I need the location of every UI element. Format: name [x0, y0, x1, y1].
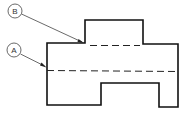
callout-a-label: A	[11, 46, 17, 55]
callout-b: B	[8, 4, 84, 43]
arrowhead-icon	[40, 63, 47, 68]
part-outline	[47, 20, 178, 107]
callout-b-leader	[22, 14, 83, 42]
technical-drawing: B A	[0, 0, 184, 113]
hidden-line-a	[47, 71, 178, 72]
callout-b-label: B	[12, 7, 17, 16]
callout-a: A	[7, 43, 47, 68]
